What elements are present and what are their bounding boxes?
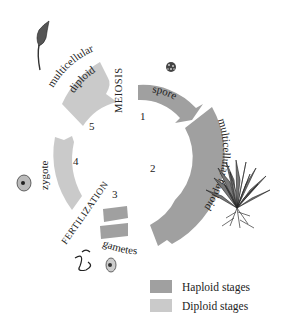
gametes-label: gametes [101,237,137,257]
stage-number-5: 5 [89,120,95,132]
zygote-icon [17,175,31,191]
sporophyte-icon [37,21,49,70]
stage-number-2: 2 [150,162,156,174]
meiosis-label: MEIOSIS [113,67,124,113]
spore-icon [166,62,176,72]
legend-label-haploid: Haploid stages [182,281,250,293]
egg-icon [106,258,116,272]
zygote-label: zygote [38,161,50,190]
stage-number-1: 1 [140,110,146,122]
legend-item-diploid: Diploid stages [150,296,250,315]
stage-4-zygote-segment [53,136,82,210]
legend-label-diploid: Diploid stages [182,300,248,312]
haploid-swatch [150,280,172,293]
legend: Haploid stages Diploid stages [150,277,250,315]
stage-3-gametes-bar-1 [103,206,128,222]
legend-item-haploid: Haploid stages [150,277,250,296]
stage-3-gametes-bar-2 [100,223,128,239]
sperm-icon [75,250,91,271]
stage-number-4: 4 [73,155,79,167]
stage-number-3: 3 [112,188,118,200]
stage-2-multicellular-haploid-segment [150,107,225,246]
diploid-swatch [150,299,172,312]
